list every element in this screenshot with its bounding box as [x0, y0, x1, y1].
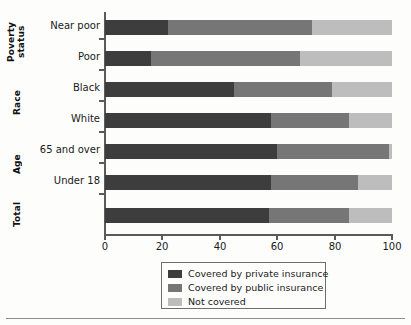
legend-label-private: Covered by private insurance	[188, 268, 328, 279]
y-tick-0	[99, 38, 104, 40]
bar-segment-public	[168, 20, 312, 35]
row-label-near-poor-wrap: Near poor	[26, 20, 100, 32]
row-label-white: White	[71, 113, 100, 124]
bar-segment-not-covered	[300, 51, 392, 66]
legend: Covered by private insurance Covered by …	[161, 262, 326, 309]
legend-label-public: Covered by public insurance	[188, 282, 323, 293]
y-tick-1	[99, 69, 104, 71]
x-tick-60	[276, 235, 278, 240]
bar-segment-private	[105, 144, 277, 159]
bar-poor	[105, 51, 392, 66]
bar-segment-private	[105, 113, 271, 128]
bar-segment-not-covered	[312, 20, 392, 35]
legend-swatch-not-covered-icon	[168, 298, 182, 306]
x-tick-0	[104, 235, 106, 240]
x-tick-20	[161, 235, 163, 240]
row-label-65-and-over: 65 and over	[40, 144, 100, 155]
bar-segment-not-covered	[332, 82, 392, 97]
legend-swatch-public-icon	[168, 284, 182, 292]
bar-segment-public	[271, 113, 348, 128]
bar-segment-public	[271, 175, 357, 190]
x-ticklabel-0: 0	[102, 241, 108, 252]
group-label-total: Total	[12, 192, 24, 236]
bar-total	[105, 208, 392, 223]
bar-segment-private	[105, 175, 271, 190]
legend-label-not-covered: Not covered	[188, 296, 246, 307]
x-ticklabel-100: 100	[382, 241, 401, 252]
bar-near-poor	[105, 20, 392, 35]
y-tick-4	[99, 162, 104, 164]
bar-black	[105, 82, 392, 97]
y-tick-3	[99, 131, 104, 133]
chart-figure: Poverty status Race Age Total Near poor …	[0, 0, 411, 325]
bottom-divider	[6, 318, 405, 319]
x-tick-100	[391, 235, 393, 240]
x-tick-80	[334, 235, 336, 240]
group-label-age: Age	[12, 140, 24, 188]
group-label-poverty-status: Poverty status	[6, 14, 28, 70]
legend-item-not-covered: Not covered	[168, 295, 320, 308]
bar-segment-not-covered	[349, 113, 392, 128]
row-label-near-poor: Near poor	[50, 20, 100, 31]
bar-segment-public	[151, 51, 300, 66]
y-tick-5	[99, 193, 104, 195]
x-ticklabel-60: 60	[271, 241, 284, 252]
row-label-black-wrap: Black	[26, 82, 100, 94]
x-tick-40	[219, 235, 221, 240]
bar-segment-public	[234, 82, 332, 97]
group-label-race: Race	[12, 78, 24, 128]
legend-item-private: Covered by private insurance	[168, 267, 320, 280]
bar-segment-public	[269, 208, 349, 223]
legend-swatch-private-icon	[168, 270, 182, 278]
bar-under-18	[105, 175, 392, 190]
legend-item-public: Covered by public insurance	[168, 281, 320, 294]
x-ticklabel-80: 80	[329, 241, 342, 252]
row-label-poor: Poor	[78, 51, 100, 62]
bar-segment-not-covered	[389, 144, 392, 159]
row-label-under-18-wrap: Under 18	[26, 175, 100, 187]
row-label-65-and-over-wrap: 65 and over	[26, 144, 100, 156]
plot-area	[105, 12, 392, 234]
row-label-black: Black	[73, 82, 100, 93]
bar-segment-private	[105, 82, 234, 97]
x-axis-line	[104, 234, 393, 236]
y-tick-2	[99, 100, 104, 102]
bar-segment-private	[105, 51, 151, 66]
bar-white	[105, 113, 392, 128]
row-label-under-18: Under 18	[54, 175, 100, 186]
row-label-white-wrap: White	[26, 113, 100, 125]
bar-segment-private	[105, 20, 168, 35]
bar-segment-not-covered	[358, 175, 392, 190]
bar-65-and-over	[105, 144, 392, 159]
bar-segment-public	[277, 144, 389, 159]
row-label-poor-wrap: Poor	[26, 51, 100, 63]
x-ticklabel-20: 20	[156, 241, 169, 252]
x-ticklabel-40: 40	[214, 241, 227, 252]
bar-segment-not-covered	[349, 208, 392, 223]
bar-segment-private	[105, 208, 269, 223]
